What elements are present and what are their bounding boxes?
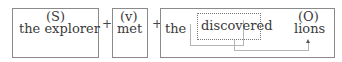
- object-article: the: [165, 22, 186, 35]
- subject-text: the explorer: [19, 22, 100, 35]
- modifier-bracket-bottom: [190, 45, 244, 46]
- arrow-up-icon: [306, 39, 310, 43]
- plus-sign-1: +: [102, 18, 112, 30]
- modifier-bracket-left: [190, 24, 191, 46]
- verb-text: met: [117, 22, 142, 35]
- object-head: lions: [294, 22, 325, 35]
- connector-horizontal: [234, 50, 309, 51]
- modifier-text: discovered: [201, 19, 273, 32]
- connector-up: [308, 43, 309, 51]
